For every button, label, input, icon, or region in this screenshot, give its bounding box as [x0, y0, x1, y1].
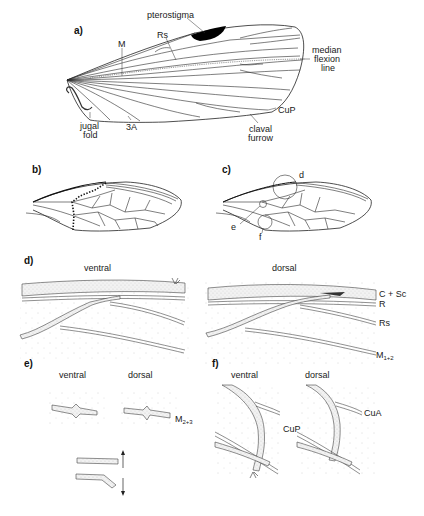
panel-c-label: c): [222, 164, 231, 175]
vein-cua: CuA: [364, 408, 382, 418]
panel-f-dorsal: [297, 385, 375, 475]
label-furrow: furrow: [248, 133, 274, 143]
label-pterostigma: pterostigma: [147, 10, 194, 20]
callout-d: d: [299, 170, 304, 180]
panel-e-label: e): [24, 358, 33, 369]
view-dorsal-f: dorsal: [305, 370, 330, 380]
wing-venation-figure: a): [0, 0, 424, 516]
forewing-veins: [67, 28, 302, 121]
panel-a: a): [67, 10, 342, 143]
view-ventral-d: ventral: [84, 263, 111, 273]
panel-a-label: a): [74, 25, 83, 36]
callout-f: f: [259, 232, 262, 242]
forewing-outline: [67, 25, 304, 123]
view-dorsal-d: dorsal: [272, 263, 297, 273]
panel-d-ventral: [20, 278, 190, 360]
panel-f: f) ventral dorsal CuA CuP: [212, 358, 382, 478]
callout-circle-f: [258, 215, 272, 229]
callout-circle-d: [273, 175, 297, 199]
panel-d: d) ventral dorsal: [20, 255, 407, 365]
panel-d-dorsal: [205, 280, 376, 365]
label-line: line: [321, 63, 335, 73]
vein-m23: M2+3: [175, 414, 193, 425]
panel-f-ventral: [215, 385, 280, 478]
vein-cup: CuP: [283, 424, 301, 434]
vein-c-sc: C + Sc: [379, 289, 407, 299]
panel-f-label: f): [212, 358, 219, 369]
panel-d-label: d): [24, 255, 33, 266]
panel-b-label: b): [32, 164, 41, 175]
label-3a: 3A: [126, 122, 137, 132]
label-m: M: [118, 39, 126, 49]
label-cup: CuP: [278, 105, 296, 115]
view-dorsal-e: dorsal: [128, 370, 153, 380]
vein-m12: M1+2: [376, 350, 394, 361]
callout-e: e: [231, 222, 236, 232]
panel-b: b): [26, 164, 181, 231]
view-ventral-e: ventral: [59, 370, 86, 380]
panel-e: e) ventral dorsal M2+3: [24, 358, 193, 496]
label-fold: fold: [83, 130, 98, 140]
vein-rs: Rs: [379, 318, 390, 328]
panel-c: c) d e f: [216, 164, 371, 242]
label-rs: Rs: [157, 30, 168, 40]
pterostigma-shape: [191, 26, 226, 41]
vein-r: R: [379, 299, 386, 309]
view-ventral-f: ventral: [231, 370, 258, 380]
